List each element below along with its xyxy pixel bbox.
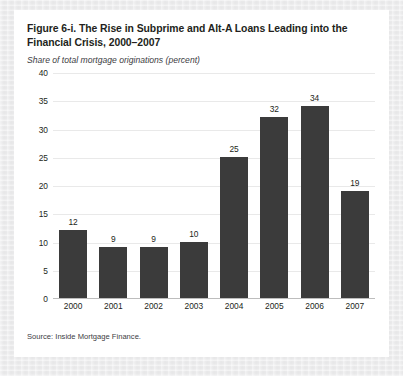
bar-series: 12991025323419 [53,73,375,298]
x-axis: 20002001200220032004200520062007 [53,301,375,311]
x-axis-tick-label: 2007 [335,301,375,311]
y-axis: 0510152025303540 [27,73,48,299]
figure-subtitle: Share of total mortgage originations (pe… [27,55,375,66]
bar-rect[interactable] [260,117,288,298]
y-axis-tick-label: 20 [39,181,48,191]
bar-item[interactable]: 32 [254,73,294,298]
y-axis-tick-label: 35 [39,96,48,106]
bar-item[interactable]: 9 [134,73,174,298]
bar-item[interactable]: 12 [53,73,93,298]
bar-rect[interactable] [140,247,168,298]
bar-item[interactable]: 34 [295,73,335,298]
bar-value-label: 25 [229,145,238,154]
bar-rect[interactable] [301,106,329,298]
y-axis-tick-label: 10 [39,238,48,248]
figure-source: Source: Inside Mortgage Finance. [27,332,141,341]
y-axis-tick-label: 15 [39,209,48,219]
bar-value-label: 12 [68,218,77,227]
bar-rect[interactable] [59,230,87,298]
y-axis-tick-label: 0 [43,294,48,304]
plot-area: 12991025323419 [53,73,375,299]
chart-plot: 0510152025303540 12991025323419 20002001… [27,73,375,318]
x-axis-tick-label: 2005 [254,301,294,311]
figure-card: Figure 6-i. The Rise in Subprime and Alt… [14,10,389,357]
x-axis-line [53,298,375,299]
y-axis-tick-label: 5 [43,266,48,276]
y-axis-tick-label: 30 [39,125,48,135]
bar-item[interactable]: 25 [214,73,254,298]
bar-item[interactable]: 10 [174,73,214,298]
bar-value-label: 9 [151,235,156,244]
bar-rect[interactable] [220,157,248,298]
x-axis-tick-label: 2000 [53,301,93,311]
x-axis-tick-label: 2002 [134,301,174,311]
figure-title: Figure 6-i. The Rise in Subprime and Alt… [27,22,375,49]
x-axis-tick-label: 2006 [295,301,335,311]
y-axis-tick-label: 40 [39,68,48,78]
bar-rect[interactable] [180,242,208,299]
x-axis-tick-label: 2001 [93,301,133,311]
bar-rect[interactable] [99,247,127,298]
bar-value-label: 10 [189,230,198,239]
bar-value-label: 19 [350,179,359,188]
bar-item[interactable]: 9 [93,73,133,298]
y-axis-tick-label: 25 [39,153,48,163]
bar-rect[interactable] [341,191,369,298]
x-axis-tick-label: 2003 [174,301,214,311]
bar-value-label: 34 [310,94,319,103]
x-axis-tick-label: 2004 [214,301,254,311]
bar-item[interactable]: 19 [335,73,375,298]
bar-value-label: 9 [111,235,116,244]
bar-value-label: 32 [270,105,279,114]
